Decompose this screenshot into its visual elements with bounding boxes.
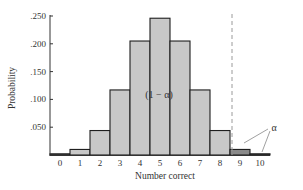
x-tick-label: 6 (178, 158, 183, 168)
x-tick-label: 10 (256, 158, 266, 168)
confidence-annotation: (1 − α) (145, 89, 173, 101)
x-tick-label: 7 (198, 158, 203, 168)
bar-0 (50, 154, 70, 155)
bar-8 (210, 131, 230, 155)
bar-10 (250, 154, 270, 155)
bar-7 (190, 90, 210, 155)
x-axis-title: Number correct (135, 171, 195, 181)
bar-2 (90, 131, 110, 155)
x-tick-label: 9 (238, 158, 243, 168)
alpha-pointer-line-9 (244, 129, 268, 143)
y-tick-label: .150 (30, 67, 46, 77)
bar-3 (110, 90, 130, 155)
y-tick-label: .250 (30, 11, 46, 21)
x-ticks-group: 012345678910 (58, 158, 265, 168)
x-tick-label: 5 (158, 158, 163, 168)
bar-6 (170, 41, 190, 155)
bar-5 (150, 18, 170, 155)
x-tick-label: 4 (138, 158, 143, 168)
y-axis-title: Probability (7, 67, 17, 109)
x-tick-label: 3 (118, 158, 123, 168)
bars-group (50, 18, 270, 155)
alpha-pointer-line-10 (262, 131, 270, 152)
x-tick-label: 8 (218, 158, 223, 168)
bar-9 (230, 149, 250, 155)
x-tick-label: 0 (58, 158, 63, 168)
y-tick-label: .200 (30, 39, 46, 49)
y-tick-label: .100 (30, 94, 46, 104)
binomial-histogram: .050.100.150.200.250 012345678910 Number… (0, 0, 303, 190)
y-tick-label: .050 (30, 122, 46, 132)
x-tick-label: 1 (78, 158, 83, 168)
bar-1 (70, 149, 90, 155)
alpha-annotation: α (271, 122, 277, 133)
x-tick-label: 2 (98, 158, 103, 168)
